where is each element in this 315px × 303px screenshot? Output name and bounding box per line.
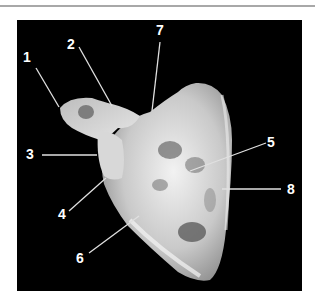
label-8: 8	[287, 182, 295, 196]
leader-line-6	[89, 216, 139, 253]
leader-line-4	[69, 178, 106, 211]
label-3: 3	[26, 147, 34, 161]
label-2: 2	[67, 37, 75, 51]
label-6: 6	[76, 251, 84, 265]
label-7: 7	[156, 23, 164, 37]
figure-panel	[17, 20, 302, 291]
label-1: 1	[23, 50, 31, 64]
leader-line-7	[152, 42, 160, 111]
leader-line-2	[79, 47, 112, 106]
scapula-illustration	[17, 20, 302, 291]
label-4: 4	[58, 207, 66, 221]
top-rule	[0, 5, 315, 7]
label-5: 5	[267, 135, 275, 149]
leader-line-1	[36, 68, 59, 107]
